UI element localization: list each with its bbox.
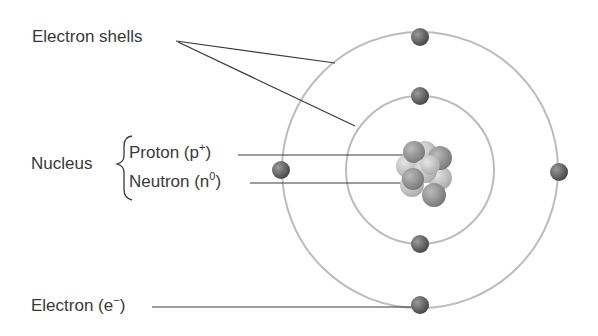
label-proton: Proton (p+) — [129, 143, 211, 163]
label-electron: Electron (e−) — [31, 296, 125, 316]
electron-outer-bottom — [411, 296, 429, 314]
electron-inner-bottom — [411, 235, 429, 253]
label-neutron: Neutron (n0) — [129, 172, 221, 192]
electron-inner-top — [411, 87, 429, 105]
nucleus-cluster — [396, 141, 452, 207]
label-nucleus: Nucleus — [31, 154, 92, 174]
electron-outer-left — [272, 161, 290, 179]
electron-outer-right — [550, 163, 568, 181]
leader-inner-shell — [178, 42, 355, 126]
label-electron-shells: Electron shells — [32, 27, 143, 47]
electron-outer-top — [411, 28, 429, 46]
